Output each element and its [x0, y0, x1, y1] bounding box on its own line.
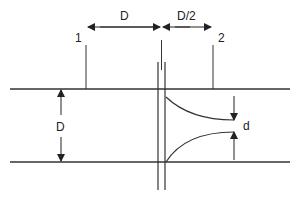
streamline-bottom [166, 132, 234, 162]
label-downstream-d-half: D/2 [177, 9, 196, 23]
streamline-top [166, 97, 234, 120]
orifice-diagram: D D/2 1 2 D d [0, 0, 297, 200]
label-vena-contracta-d: d [243, 119, 250, 133]
label-station-2: 2 [218, 31, 225, 45]
label-pipe-diameter: D [56, 120, 65, 134]
label-station-1: 1 [75, 31, 82, 45]
label-upstream-d: D [120, 9, 129, 23]
